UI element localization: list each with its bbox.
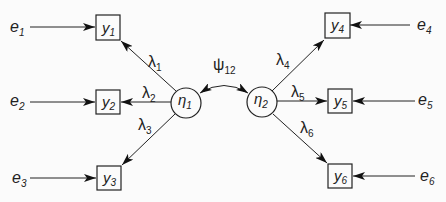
label-e2: e2 [10, 92, 25, 112]
label-e6: e6 [420, 167, 435, 187]
label-lambda5: λ5 [291, 83, 305, 103]
label-e1: e1 [10, 18, 24, 38]
label-psi12: ψ12 [213, 56, 236, 76]
label-lambda6: λ6 [300, 119, 314, 139]
label-e5: e5 [418, 91, 433, 111]
covariance-arrow [200, 86, 248, 94]
label-e3: e3 [12, 169, 27, 189]
sem-diagram: y1 y2 y3 y4 y5 y6 η1 η2 e1 e2 e3 e4 e5 e… [0, 0, 446, 202]
loading-arrow-3 [122, 114, 175, 165]
label-lambda3: λ3 [138, 116, 152, 136]
diagram-svg: y1 y2 y3 y4 y5 y6 η1 η2 e1 e2 e3 e4 e5 e… [0, 0, 446, 202]
label-lambda4: λ4 [276, 51, 290, 71]
label-lambda1: λ1 [148, 53, 162, 73]
label-lambda2: λ2 [142, 84, 156, 104]
label-e4: e4 [417, 16, 432, 36]
